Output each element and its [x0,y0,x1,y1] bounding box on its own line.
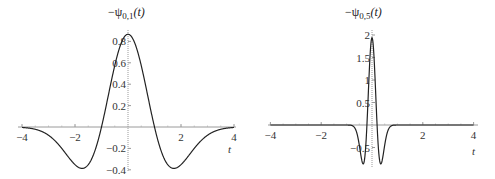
y-tick-label: 0.2 [112,100,126,112]
y-ticks: 0.80.60.40.2−0.2−0.4 [106,35,131,175]
x-tick-label: 2 [178,131,184,143]
x-tick-label: 4 [231,131,237,143]
y-tick-label: 0.4 [112,78,126,90]
y-ticks: 21.510.5−0.5 [350,29,375,154]
y-tick-label: 2 [365,29,371,41]
x-tick-label: −2 [69,131,81,143]
chart-psi-0-5: −4−224 21.510.5−0.5 −ψ0,5(t) t [265,5,478,167]
x-tick-label: 2 [420,129,426,141]
wavelet-figure: −4−224 0.80.60.40.2−0.2−0.4 −ψ0,1(t) t −… [0,0,495,179]
x-axis-label: t [472,145,476,157]
chart-psi-0-1: −4−224 0.80.60.40.2−0.2−0.4 −ψ0,1(t) t [16,5,237,176]
x-tick-label: −2 [315,129,327,141]
x-tick-label: −4 [265,129,277,141]
chart-title: −ψ0,1(t) [108,5,145,21]
x-tick-label: −4 [16,131,28,143]
y-tick-label: −0.2 [106,142,126,154]
y-tick-label: −0.4 [106,164,126,176]
chart-title: −ψ0,5(t) [345,5,382,21]
x-tick-label: 4 [471,129,477,141]
y-tick-label: 1.5 [356,52,370,64]
x-axis-label: t [228,143,232,155]
